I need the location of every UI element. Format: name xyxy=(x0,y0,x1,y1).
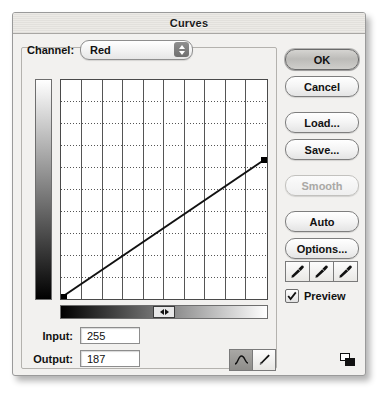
curve-line xyxy=(61,80,267,299)
input-label: Input: xyxy=(21,330,73,342)
preview-label: Preview xyxy=(304,290,346,302)
output-row: Output: 187 xyxy=(21,350,140,367)
dialog-button-column: OK Cancel Load... Save... Smooth Auto Op… xyxy=(285,49,357,265)
cancel-button[interactable]: Cancel xyxy=(285,76,359,97)
curves-dialog: Curves Channel: Red xyxy=(12,12,366,376)
input-field[interactable]: 255 xyxy=(80,327,140,344)
load-button[interactable]: Load... xyxy=(285,112,359,133)
eyedropper-icon xyxy=(338,264,353,279)
smooth-button: Smooth xyxy=(285,175,359,196)
options-button[interactable]: Options... xyxy=(285,238,359,259)
channel-select[interactable]: Red xyxy=(80,40,193,60)
black-point-eyedropper-button[interactable] xyxy=(286,262,309,281)
channel-label: Channel: xyxy=(27,44,74,56)
output-field[interactable]: 187 xyxy=(80,350,140,367)
resize-grip-glyph xyxy=(340,353,356,367)
eyedropper-group xyxy=(285,261,358,282)
curve-tool-button[interactable] xyxy=(230,350,252,370)
auto-button[interactable]: Auto xyxy=(285,211,359,232)
output-gradient-bar xyxy=(35,79,52,300)
chevron-updown-icon xyxy=(174,42,189,57)
resize-grip-icon[interactable] xyxy=(339,352,357,368)
curve-graph[interactable] xyxy=(60,79,268,300)
screenshot-root: Curves Channel: Red xyxy=(0,0,379,395)
gray-point-eyedropper-button[interactable] xyxy=(309,262,333,281)
curve-edit-tools xyxy=(229,349,276,371)
eyedropper-icon xyxy=(290,264,305,279)
gradient-direction-toggle[interactable] xyxy=(153,306,175,318)
preview-checkbox[interactable] xyxy=(285,289,299,303)
eyedropper-icon xyxy=(314,264,329,279)
save-button[interactable]: Save... xyxy=(285,139,359,160)
pencil-tool-button[interactable] xyxy=(252,350,275,370)
preview-row: Preview xyxy=(285,289,346,303)
white-point-eyedropper-button[interactable] xyxy=(333,262,357,281)
dialog-titlebar[interactable]: Curves xyxy=(13,13,365,34)
output-label: Output: xyxy=(21,353,73,365)
ok-button[interactable]: OK xyxy=(285,49,359,70)
channel-selected-value: Red xyxy=(81,44,111,56)
checkmark-icon xyxy=(287,291,297,301)
input-row: Input: 255 xyxy=(21,327,140,344)
channel-row: Channel: Red xyxy=(27,40,193,60)
dialog-title: Curves xyxy=(170,17,209,29)
input-gradient-bar[interactable] xyxy=(60,305,268,319)
pencil-icon xyxy=(257,353,271,367)
dialog-body: Channel: Red xyxy=(13,33,365,375)
curve-icon xyxy=(234,354,249,366)
